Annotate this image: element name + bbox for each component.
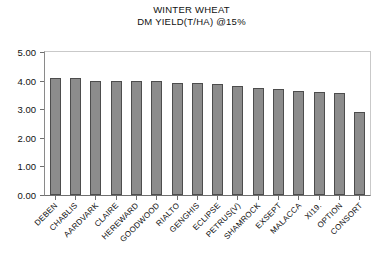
y-axis-tick-label: 2.00 — [2, 132, 36, 143]
x-axis-label-slot: AARDVARK — [86, 201, 106, 259]
bar — [70, 78, 81, 195]
bar — [253, 88, 264, 195]
x-axis-ticks — [45, 196, 370, 200]
x-axis-tick-slot — [126, 196, 146, 200]
x-axis-labels: DEBENCHABLISAARDVARKCLAIREHEREWARDGOODWO… — [45, 201, 370, 259]
y-axis-tick-label: 4.00 — [2, 75, 36, 86]
bar — [314, 92, 325, 195]
bar — [212, 84, 223, 195]
bar — [354, 112, 365, 195]
x-axis-tick-slot — [65, 196, 85, 200]
bar — [273, 89, 284, 195]
x-axis-tick-mark — [258, 196, 259, 200]
x-axis-tick-mark — [237, 196, 238, 200]
x-axis-tick-mark — [359, 196, 360, 200]
bar — [192, 83, 203, 195]
x-axis-tick-mark — [278, 196, 279, 200]
bar-slot — [86, 52, 106, 195]
bar — [131, 81, 142, 195]
x-axis-label-slot: SHAMROCK — [248, 201, 268, 259]
bar-series — [45, 52, 370, 195]
x-axis-tick-mark — [95, 196, 96, 200]
x-axis-tick-mark — [156, 196, 157, 200]
x-axis-label-slot: CONSORT — [350, 201, 370, 259]
bar-slot — [208, 52, 228, 195]
bar — [111, 81, 122, 195]
x-axis-tick-slot — [309, 196, 329, 200]
y-axis-tick-label: 5.00 — [2, 47, 36, 58]
x-axis-tick-mark — [217, 196, 218, 200]
bar-slot — [329, 52, 349, 195]
bar-slot — [65, 52, 85, 195]
bar — [232, 86, 243, 195]
bar-slot — [248, 52, 268, 195]
x-axis-tick-mark — [319, 196, 320, 200]
bar — [50, 78, 61, 195]
bar-slot — [45, 52, 65, 195]
bar — [172, 83, 183, 195]
x-axis-tick-mark — [75, 196, 76, 200]
x-axis-tick-mark — [177, 196, 178, 200]
x-axis-tick-slot — [167, 196, 187, 200]
x-axis-tick-slot — [208, 196, 228, 200]
chart-title-block: WINTER WHEAT DM YIELD(T/HA) @15% — [0, 4, 383, 28]
bar-slot — [167, 52, 187, 195]
bar-slot — [228, 52, 248, 195]
bar — [90, 81, 101, 195]
bar-slot — [350, 52, 370, 195]
bar-slot — [187, 52, 207, 195]
x-axis-tick-slot — [329, 196, 349, 200]
bar — [151, 81, 162, 195]
y-axis-tick-label: 3.00 — [2, 104, 36, 115]
chart-title: WINTER WHEAT — [0, 4, 383, 16]
x-axis-tick-slot — [289, 196, 309, 200]
bar — [334, 93, 345, 195]
x-axis-tick-mark — [197, 196, 198, 200]
bar — [293, 91, 304, 195]
x-axis-tick-mark — [339, 196, 340, 200]
x-axis-tick-slot — [268, 196, 288, 200]
x-axis-label-slot: MALACCA — [289, 201, 309, 259]
x-axis-label-slot: GOODWOOD — [147, 201, 167, 259]
x-axis-tick-slot — [350, 196, 370, 200]
x-axis-tick-mark — [298, 196, 299, 200]
x-axis-tick-slot — [86, 196, 106, 200]
x-axis-tick-mark — [55, 196, 56, 200]
y-axis-tick-label: 0.00 — [2, 190, 36, 201]
x-axis-tick-slot — [106, 196, 126, 200]
chart-container: WINTER WHEAT DM YIELD(T/HA) @15% 5.004.0… — [0, 0, 383, 260]
x-axis-tick-slot — [147, 196, 167, 200]
bar-slot — [126, 52, 146, 195]
bar-slot — [289, 52, 309, 195]
x-axis-tick-mark — [116, 196, 117, 200]
chart-subtitle: DM YIELD(T/HA) @15% — [0, 16, 383, 28]
x-axis-tick-mark — [136, 196, 137, 200]
x-axis-label-slot: XI19. — [309, 201, 329, 259]
bar-slot — [106, 52, 126, 195]
bar-slot — [147, 52, 167, 195]
bar-slot — [268, 52, 288, 195]
x-axis-tick-slot — [228, 196, 248, 200]
x-axis-tick-slot — [248, 196, 268, 200]
x-axis-tick-slot — [187, 196, 207, 200]
bar-slot — [309, 52, 329, 195]
y-axis-tick-label: 1.00 — [2, 161, 36, 172]
x-axis-tick-slot — [45, 196, 65, 200]
